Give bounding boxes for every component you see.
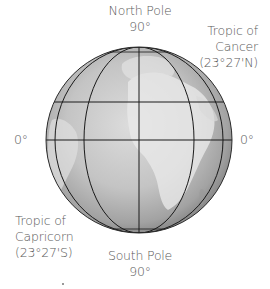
stray-dot [62, 283, 64, 285]
south-pole-degrees: 90° [95, 264, 185, 280]
north-pole-name: North Pole [95, 3, 185, 19]
south-pole-name: South Pole [95, 248, 185, 264]
tropic-capricorn-line1: Tropic of [15, 213, 74, 229]
globe-body [40, 47, 240, 233]
tropic-of-capricorn-label: Tropic of Capricorn (23°27'S) [15, 213, 74, 261]
north-pole-degrees: 90° [95, 19, 185, 35]
tropic-capricorn-line3: (23°27'S) [15, 245, 74, 261]
equator-label-left: 0° [14, 132, 28, 148]
tropic-cancer-line3: (23°27'N) [199, 55, 258, 71]
north-pole-label: North Pole 90° [95, 3, 185, 35]
tropic-cancer-line1: Tropic of [199, 23, 258, 39]
equator-label-right: 0° [240, 132, 254, 148]
tropic-cancer-line2: Cancer [199, 39, 258, 55]
tropic-of-cancer-label: Tropic of Cancer (23°27'N) [199, 23, 258, 71]
tropic-capricorn-line2: Capricorn [15, 229, 74, 245]
south-pole-label: South Pole 90° [95, 248, 185, 280]
